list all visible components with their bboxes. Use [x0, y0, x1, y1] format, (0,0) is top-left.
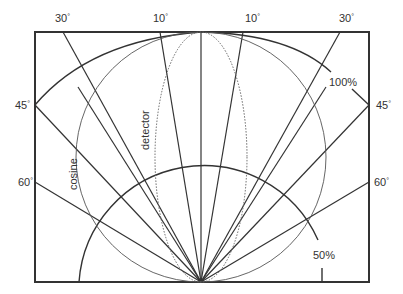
label-top-left-10: 10° [153, 12, 168, 24]
label-left-60: 60° [18, 176, 33, 188]
label-cosine: cosine [67, 158, 79, 190]
label-left-45: 45° [15, 99, 30, 111]
label-detector: detector [139, 110, 151, 150]
label-right-45: 45° [376, 99, 391, 111]
label-top-right-10: 10° [245, 12, 260, 24]
label-right-60: 60° [374, 176, 389, 188]
label-top-right-30: 30° [339, 12, 354, 24]
ray-right-60 [201, 182, 369, 282]
angular-response-diagram: 30° 10° 10° 30° 45° 45° 60° 60° 100% 50%… [0, 0, 403, 294]
label-50-percent: 50% [313, 249, 335, 261]
arc-100-percent-end [352, 89, 369, 105]
arc-100-percent [35, 32, 331, 105]
ray-left-60 [35, 182, 201, 282]
angle-rays [35, 32, 369, 282]
label-top-left-30: 30° [55, 12, 70, 24]
ray-right-40 [201, 87, 326, 282]
label-100-percent: 100% [329, 76, 357, 88]
